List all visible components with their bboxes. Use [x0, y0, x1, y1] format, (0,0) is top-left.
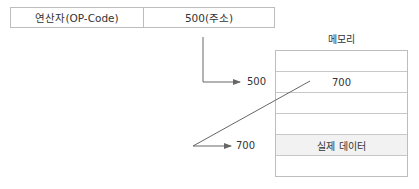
pointer-arrows	[0, 0, 419, 189]
address-700-label: 700	[236, 140, 255, 151]
first-pointer-arrow	[203, 37, 240, 82]
second-pointer-arrow	[193, 81, 310, 146]
address-500-label: 500	[247, 76, 266, 87]
